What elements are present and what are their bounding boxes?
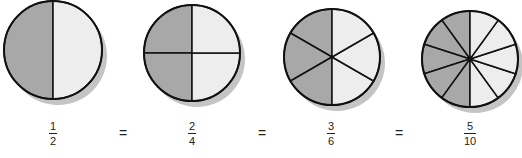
pie-tenths: [422, 11, 522, 113]
denominator: 2: [38, 135, 68, 147]
fraction-three-sixths: 3 6: [316, 120, 346, 147]
fraction-bar: [327, 133, 335, 134]
denominator: 10: [455, 135, 485, 147]
numerator: 2: [177, 120, 207, 132]
fraction-bar: [464, 133, 476, 134]
numerator: 1: [38, 120, 68, 132]
equals-sign: =: [258, 125, 266, 141]
equals-sign: =: [119, 125, 127, 141]
fraction-five-tenths: 5 10: [455, 120, 485, 147]
pie-halves: [4, 1, 107, 105]
fraction-two-fourths: 2 4: [177, 120, 207, 147]
pie-sixths: [284, 9, 385, 111]
numerator: 5: [455, 120, 485, 132]
pie-quarters: [144, 5, 245, 107]
fraction-one-half: 1 2: [38, 120, 68, 147]
fraction-bar: [49, 133, 57, 134]
denominator: 4: [177, 135, 207, 147]
fraction-bar: [188, 133, 196, 134]
numerator: 3: [316, 120, 346, 132]
equals-sign: =: [395, 125, 403, 141]
denominator: 6: [316, 135, 346, 147]
shaded-sector: [4, 1, 53, 99]
